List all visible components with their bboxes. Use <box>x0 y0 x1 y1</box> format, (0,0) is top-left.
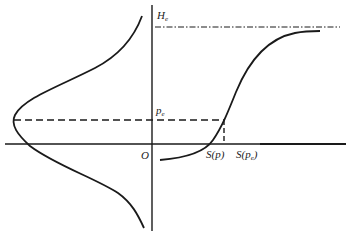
pe-label: pe <box>155 104 165 118</box>
he-label: He <box>156 9 168 23</box>
diagram-canvas: He pe O S(p) S(pe) <box>0 0 346 244</box>
s-curve <box>160 31 320 160</box>
origin-label: O <box>141 149 149 161</box>
bell-curve <box>13 16 144 228</box>
sp-label: S(p) <box>206 148 225 161</box>
spe-label: S(pe) <box>236 148 258 162</box>
